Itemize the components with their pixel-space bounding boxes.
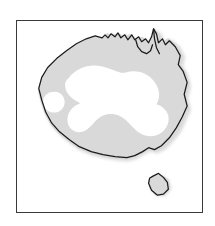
map-frame bbox=[16, 20, 203, 213]
interior-white-lobe-west bbox=[43, 92, 64, 113]
australia-map bbox=[17, 21, 202, 212]
figure-root bbox=[0, 0, 215, 226]
